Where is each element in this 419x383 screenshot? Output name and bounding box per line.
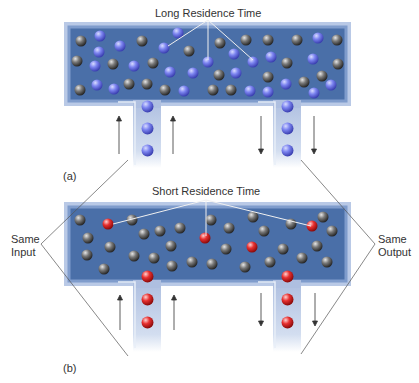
long-residence-time-label: Long Residence Time <box>155 7 261 20</box>
same-input-label: Same Input <box>11 233 40 259</box>
panel-a <box>64 20 351 168</box>
same-output-label: Same Output <box>378 233 411 259</box>
panel-b-label: (b) <box>63 362 76 375</box>
panel-a-label: (a) <box>63 170 76 183</box>
short-residence-time-label: Short Residence Time <box>152 185 260 198</box>
